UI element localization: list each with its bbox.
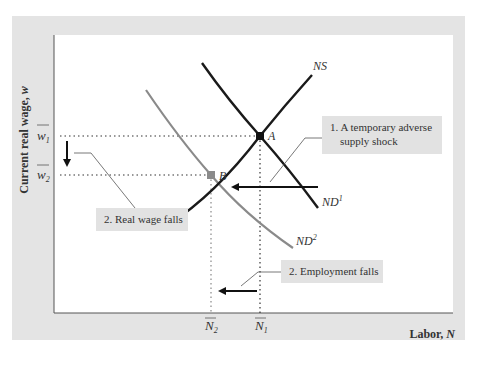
ns-label: NS <box>312 59 327 73</box>
point-a-label: A <box>267 129 276 143</box>
x-axis-label: Labor, N <box>409 327 456 341</box>
shock-label-line1: 1. A temporary adverse <box>330 121 432 133</box>
plot-area <box>54 35 453 313</box>
shock-label-line2: supply shock <box>340 135 398 147</box>
labor-market-diagram: Current real wage, w Labor, N A B NS ND1… <box>0 0 488 366</box>
n1-tick: N1 <box>254 318 268 335</box>
point-a-marker <box>256 132 264 140</box>
point-b-label: B <box>219 169 227 183</box>
point-b-marker <box>207 171 215 179</box>
wage-falls-label: 2. Real wage falls <box>104 213 183 225</box>
y-axis-label: Current real wage, w <box>17 85 31 194</box>
n2-tick: N2 <box>204 318 218 335</box>
w1-tick: w1 <box>37 128 50 145</box>
w2-tick: w2 <box>37 167 50 184</box>
employment-falls-label: 2. Employment falls <box>289 265 379 277</box>
